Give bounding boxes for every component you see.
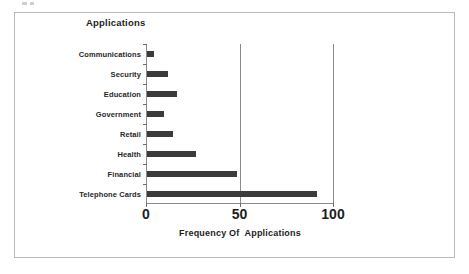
bar	[147, 131, 173, 137]
scan-artifact-mark	[30, 2, 34, 5]
x-tick-label: 100	[321, 206, 344, 222]
category-label: Health	[117, 150, 141, 159]
scan-artifact-mark	[22, 2, 27, 5]
bar	[147, 151, 196, 157]
category-label: Security	[111, 70, 141, 79]
screenshot-root: Applications CommunicationsSecurityEduca…	[0, 0, 469, 274]
y-tick	[143, 164, 147, 165]
category-label: Government	[96, 110, 141, 119]
y-tick	[143, 144, 147, 145]
y-tick	[143, 44, 147, 45]
bar	[147, 171, 237, 177]
x-gridline-50	[240, 44, 241, 204]
y-tick	[143, 84, 147, 85]
bar	[147, 91, 177, 97]
chart-title: Applications	[86, 17, 145, 28]
bar	[147, 111, 164, 117]
category-label: Telephone Cards	[79, 190, 141, 199]
bar	[147, 51, 154, 57]
category-label: Communications	[79, 50, 141, 59]
x-tick-label: 0	[142, 206, 150, 222]
bar	[147, 71, 168, 77]
plot-area	[146, 44, 333, 204]
y-tick	[143, 64, 147, 65]
y-tick	[143, 124, 147, 125]
category-label: Retail	[120, 130, 141, 139]
y-tick	[143, 184, 147, 185]
category-label: Financial	[108, 170, 141, 179]
x-tick-label: 50	[232, 206, 248, 222]
category-label: Education	[104, 90, 141, 99]
x-gridline-100	[333, 44, 334, 204]
bar	[147, 191, 317, 197]
x-axis-title: Frequency Of Applications	[146, 228, 334, 238]
category-axis-labels: CommunicationsSecurityEducationGovernmen…	[38, 44, 141, 204]
y-tick	[143, 104, 147, 105]
